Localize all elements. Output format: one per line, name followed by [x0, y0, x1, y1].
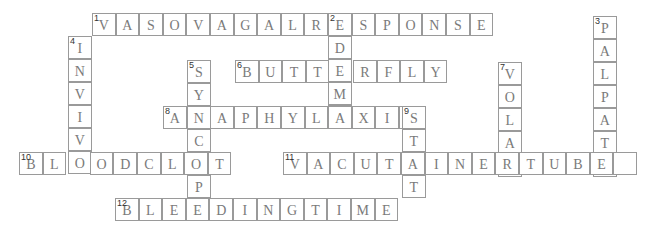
crossword-cell[interactable]: A: [210, 13, 234, 36]
crossword-cell[interactable]: P: [375, 13, 399, 36]
crossword-cell[interactable]: L: [161, 152, 185, 175]
crossword-cell[interactable]: A: [401, 152, 425, 175]
crossword-cell[interactable]: N: [257, 198, 281, 221]
crossword-cell[interactable]: A: [307, 152, 331, 175]
crossword-cell[interactable]: N: [448, 152, 472, 175]
crossword-cell[interactable]: A: [328, 106, 352, 129]
crossword-cell[interactable]: N: [68, 59, 92, 82]
crossword-cell[interactable]: I: [327, 198, 351, 221]
crossword-cell[interactable]: R: [353, 60, 377, 83]
crossword-cell[interactable]: L: [139, 198, 163, 221]
crossword-cell[interactable]: T: [208, 152, 232, 175]
crossword-cell[interactable]: T: [282, 60, 306, 83]
crossword-cell[interactable]: D: [113, 152, 137, 175]
crossword-cell[interactable]: T: [377, 152, 401, 175]
crossword-cell[interactable]: I4: [68, 36, 92, 59]
cell-letter: S: [353, 19, 375, 33]
cell-letter: O: [91, 158, 113, 172]
crossword-cell[interactable]: A: [593, 108, 617, 131]
crossword-cell[interactable]: O: [184, 152, 208, 175]
crossword-cell[interactable]: M: [328, 82, 352, 105]
crossword-cell[interactable]: V11: [283, 152, 307, 175]
crossword-cell[interactable]: E: [328, 59, 352, 82]
crossword-cell[interactable]: L: [281, 13, 305, 36]
crossword-cell[interactable]: D: [328, 36, 352, 59]
crossword-cell[interactable]: T: [304, 198, 328, 221]
crossword-cell[interactable]: R: [495, 152, 519, 175]
crossword-cell[interactable]: L: [400, 60, 424, 83]
crossword-cell[interactable]: Y: [424, 60, 448, 83]
crossword-cell[interactable]: T: [306, 60, 330, 83]
crossword-cell[interactable]: B6: [235, 60, 259, 83]
crossword-cell[interactable]: B10: [19, 152, 43, 175]
cell-letter: L: [282, 19, 304, 33]
crossword-cell[interactable]: U: [543, 152, 567, 175]
clue-number: 3: [595, 16, 600, 26]
crossword-cell[interactable]: O: [68, 151, 92, 174]
crossword-cell[interactable]: A: [116, 13, 140, 36]
crossword-cell[interactable]: B12: [115, 198, 139, 221]
crossword-cell[interactable]: L: [43, 152, 67, 175]
crossword-cell[interactable]: X: [352, 106, 376, 129]
crossword-cell[interactable]: P: [593, 85, 617, 108]
crossword-cell[interactable]: V: [68, 128, 92, 151]
crossword-cell[interactable]: I: [375, 106, 399, 129]
crossword-cell[interactable]: L: [593, 62, 617, 85]
crossword-cell[interactable]: T: [593, 131, 617, 154]
crossword-cell[interactable]: A: [498, 131, 522, 154]
crossword-cell[interactable]: C: [137, 152, 161, 175]
crossword-cell[interactable]: U: [259, 60, 283, 83]
crossword-cell[interactable]: [613, 152, 637, 175]
crossword-cell[interactable]: E: [590, 152, 614, 175]
crossword-cell[interactable]: C: [330, 152, 354, 175]
crossword-cell[interactable]: S: [352, 13, 376, 36]
crossword-cell[interactable]: A: [257, 13, 281, 36]
crossword-cell[interactable]: L: [305, 106, 329, 129]
crossword-cell[interactable]: A: [593, 39, 617, 62]
crossword-cell[interactable]: D: [209, 198, 233, 221]
crossword-cell[interactable]: N: [422, 13, 446, 36]
crossword-cell[interactable]: S: [446, 13, 470, 36]
crossword-cell[interactable]: E: [375, 198, 399, 221]
crossword-cell[interactable]: H: [257, 106, 281, 129]
crossword-cell[interactable]: C: [187, 129, 211, 152]
crossword-cell[interactable]: L: [498, 108, 522, 131]
crossword-cell[interactable]: N: [187, 106, 211, 129]
crossword-cell[interactable]: A8: [163, 106, 187, 129]
crossword-cell[interactable]: I: [233, 198, 257, 221]
crossword-cell[interactable]: T: [519, 152, 543, 175]
crossword-cell[interactable]: O: [399, 13, 423, 36]
crossword-cell[interactable]: I: [425, 152, 449, 175]
crossword-cell[interactable]: G: [280, 198, 304, 221]
crossword-cell[interactable]: T: [402, 129, 426, 152]
crossword-cell[interactable]: B: [566, 152, 590, 175]
crossword-cell[interactable]: F: [377, 60, 401, 83]
crossword-cell[interactable]: V1: [92, 13, 116, 36]
crossword-cell[interactable]: U: [354, 152, 378, 175]
crossword-cell[interactable]: R: [304, 13, 328, 36]
crossword-cell[interactable]: M: [351, 198, 375, 221]
crossword-cell[interactable]: O: [498, 85, 522, 108]
crossword-cell[interactable]: S: [139, 13, 163, 36]
crossword-cell[interactable]: E2: [328, 13, 352, 36]
crossword-cell[interactable]: G: [234, 13, 258, 36]
crossword-cell[interactable]: T: [402, 175, 426, 198]
crossword-cell[interactable]: E: [186, 198, 210, 221]
crossword-cell[interactable]: V: [68, 82, 92, 105]
crossword-cell[interactable]: S5: [187, 60, 211, 83]
crossword-cell[interactable]: V: [186, 13, 210, 36]
crossword-cell[interactable]: O: [90, 152, 114, 175]
crossword-cell[interactable]: E: [162, 198, 186, 221]
crossword-cell[interactable]: Y: [187, 83, 211, 106]
crossword-cell[interactable]: E: [470, 13, 494, 36]
crossword-cell[interactable]: S9: [402, 106, 426, 129]
crossword-cell[interactable]: P3: [593, 16, 617, 39]
crossword-cell[interactable]: P: [187, 175, 211, 198]
crossword-cell[interactable]: I: [68, 105, 92, 128]
crossword-cell[interactable]: A: [210, 106, 234, 129]
crossword-cell[interactable]: P: [234, 106, 258, 129]
crossword-cell[interactable]: E: [472, 152, 496, 175]
crossword-cell[interactable]: Y: [281, 106, 305, 129]
crossword-cell[interactable]: O: [163, 13, 187, 36]
crossword-cell[interactable]: V7: [498, 62, 522, 85]
